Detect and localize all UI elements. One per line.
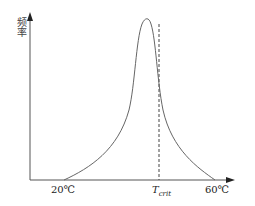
y-axis-arrow-icon (27, 12, 33, 21)
frequency-curve (64, 19, 215, 180)
y-axis-label: 频率 (14, 17, 26, 37)
frequency-diagram (0, 0, 255, 206)
x-tick-20c: 20℃ (51, 184, 75, 195)
x-tick-60c: 60℃ (205, 184, 229, 195)
x-tick-tcrit: Tcrit (152, 184, 171, 198)
tcrit-symbol: T (152, 184, 159, 195)
x-axis-arrow-icon (226, 177, 235, 183)
tcrit-subscript: crit (159, 190, 171, 198)
